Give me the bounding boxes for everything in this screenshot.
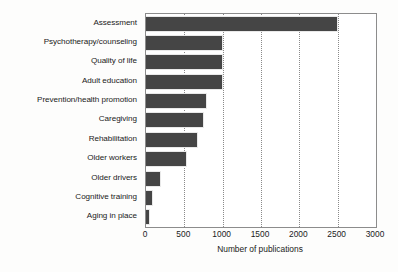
bar-band: [146, 208, 376, 227]
bar-band: [146, 91, 376, 110]
bar[interactable]: [146, 132, 198, 148]
bar-band: [146, 111, 376, 130]
bar[interactable]: [146, 54, 223, 70]
bar[interactable]: [146, 112, 204, 128]
x-tick-label: 2000: [289, 228, 308, 240]
category-label: Psychotherapy/counseling: [0, 32, 141, 51]
bar-band: [146, 169, 376, 188]
x-tick-label: 1000: [212, 228, 231, 240]
bar-band: [146, 53, 376, 72]
bar-band: [146, 130, 376, 149]
x-tick-label: 2500: [327, 228, 346, 240]
category-label: Aging in place: [0, 207, 141, 226]
publications-bar-chart: AssessmentPsychotherapy/counselingQualit…: [0, 0, 398, 272]
category-axis: AssessmentPsychotherapy/counselingQualit…: [0, 13, 141, 226]
plot-area: [145, 13, 377, 228]
category-label: Older workers: [0, 149, 141, 168]
x-tick-label: 1500: [251, 228, 270, 240]
x-tick-label: 500: [176, 228, 190, 240]
category-label: Cognitive training: [0, 187, 141, 206]
category-label: Prevention/health promotion: [0, 90, 141, 109]
bar[interactable]: [146, 190, 153, 206]
bars-layer: [146, 14, 376, 227]
category-label: Older drivers: [0, 168, 141, 187]
bar[interactable]: [146, 74, 223, 90]
bar[interactable]: [146, 16, 338, 32]
bar[interactable]: [146, 151, 187, 167]
bar[interactable]: [146, 35, 223, 51]
plot-inner: [146, 14, 376, 227]
bar-band: [146, 150, 376, 169]
x-tick-label: 0: [143, 228, 148, 240]
category-label: Quality of life: [0, 52, 141, 71]
x-axis-tick-labels: 050010001500200025003000: [145, 228, 375, 240]
x-axis-title: Number of publications: [145, 244, 375, 254]
bar-band: [146, 188, 376, 207]
bar[interactable]: [146, 209, 150, 225]
category-label: Assessment: [0, 13, 141, 32]
category-label: Adult education: [0, 71, 141, 90]
bar-band: [146, 33, 376, 52]
bar-band: [146, 14, 376, 33]
bar[interactable]: [146, 171, 161, 187]
x-tick-label: 3000: [366, 228, 385, 240]
category-label: Rehabilitation: [0, 129, 141, 148]
bar-band: [146, 72, 376, 91]
bar[interactable]: [146, 93, 207, 109]
category-label: Caregiving: [0, 110, 141, 129]
